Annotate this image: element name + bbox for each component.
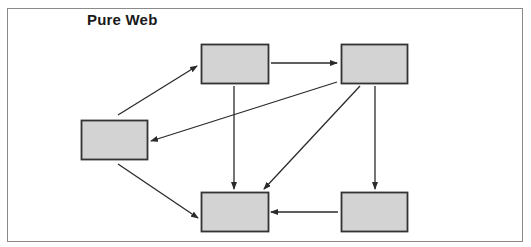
edge-left-to-top-middle bbox=[118, 66, 197, 115]
node-left bbox=[82, 121, 148, 160]
diagram-canvas bbox=[0, 0, 531, 247]
edge-top-right-to-left bbox=[151, 82, 337, 141]
node-bottom-right bbox=[342, 193, 408, 232]
node-bottom-middle bbox=[202, 193, 269, 232]
edge-left-to-bottom-middle bbox=[118, 164, 198, 218]
edge-top-right-to-bottom-middle bbox=[264, 86, 360, 189]
node-top-right bbox=[342, 45, 408, 84]
node-top-middle bbox=[202, 45, 269, 84]
